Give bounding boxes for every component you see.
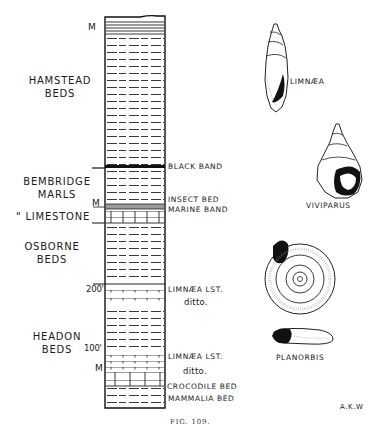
fossil-label-viviparus: VIVIPARUS [306, 202, 351, 210]
unit-name: BEMBRIDGE [14, 175, 100, 188]
viviparus-shell-icon [317, 124, 362, 198]
unit-sub: BEDS [14, 253, 90, 266]
fossil-label-planorbis: PLANORBIS [276, 354, 324, 362]
bed-label-ditto-lower: ditto. [183, 367, 207, 376]
fossil-label-limnaea: LIMNÆA [290, 78, 325, 86]
unit-label-osborne: OSBORNE BEDS [14, 240, 90, 266]
unit-sub: MARLS [14, 188, 100, 201]
laminated-top [106, 22, 164, 34]
unit-name: OSBORNE [14, 240, 90, 253]
bed-label-mammalia-bed: MAMMALIA BED [168, 395, 234, 403]
marine-mark-top: M [88, 23, 96, 32]
marine-band [106, 204, 164, 209]
black-band [105, 165, 165, 168]
unit-name: HEADON [20, 330, 94, 343]
bed-label-limnaea-lst-upper: LIMNÆA LST. [168, 286, 223, 294]
unit-label-hamstead: HAMSTEAD BEDS [20, 74, 100, 100]
bed-label-marine-band: MARINE BAND [168, 206, 228, 214]
unit-label-limestone: " LIMESTONE [16, 212, 90, 222]
unit-label-bembridge-marls: BEMBRIDGE MARLS [14, 175, 100, 201]
limnaea-shell-icon [265, 24, 288, 112]
bed-label-insect-bed: INSECT BED [168, 196, 219, 204]
bed-label-ditto-upper: ditto. [184, 298, 208, 307]
marine-mark-bembridge: M [92, 199, 100, 208]
unit-label-headon: HEADON BEDS [20, 330, 94, 356]
artist-signature: A.K.W [340, 404, 364, 411]
bed-label-black-band: BLACK BAND [168, 163, 223, 171]
bed-label-crocodile-bed: CROCODILE BED [167, 383, 237, 391]
figure-caption: FIG. 109. [170, 419, 210, 426]
depth-marker-100: 100' [84, 344, 102, 353]
unit-sub: BEDS [20, 87, 100, 100]
unit-name: " LIMESTONE [16, 211, 90, 222]
limestone-bed [106, 211, 164, 223]
marine-mark-headon: M [95, 364, 103, 373]
bed-label-limnaea-lst-lower: LIMNÆA LST. [168, 353, 223, 361]
depth-marker-200: 200' [86, 285, 104, 294]
planorbis-coil-icon [265, 240, 335, 314]
planorbis-side-icon [272, 328, 333, 344]
unit-sub: BEDS [20, 343, 94, 356]
unit-name: HAMSTEAD [20, 74, 100, 87]
